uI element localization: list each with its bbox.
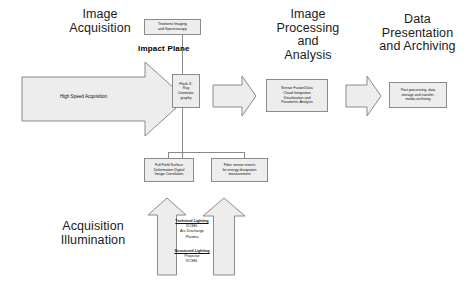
impact-plane-label: Impact Plane — [138, 44, 190, 53]
box-full-field-dic[interactable]: Full Field Surface Deformation Digital I… — [144, 158, 194, 182]
heading-line: and Archiving — [366, 40, 469, 54]
heading-line: Acquisition — [38, 220, 148, 234]
heading-image-processing-analysis: Image Processing and Analysis — [248, 8, 368, 62]
box-terahertz-imaging[interactable]: Terahertz Imaging and Spectroscopy — [144, 19, 201, 35]
illumination-item: Plasma — [157, 235, 227, 240]
box-line: measurement — [213, 172, 266, 177]
illumination-item: VCSEL — [157, 259, 227, 264]
diagram-canvas: Image Acquisition Image Processing and A… — [0, 0, 469, 285]
box-line: and Spectroscopy — [146, 27, 199, 32]
box-post-processing[interactable]: Post processing, data storage and transf… — [389, 82, 447, 108]
acquisition-to-processing-arrow — [213, 76, 256, 116]
heading-acquisition-illumination: Acquisition Illumination — [38, 220, 148, 247]
high-speed-acquisition-label: High Speed Acquisition — [22, 94, 145, 99]
heading-line: Acquisition — [40, 22, 160, 36]
processing-to-presentation-arrow — [346, 76, 381, 116]
box-line: graphy — [174, 96, 198, 101]
heading-line: Processing — [248, 22, 368, 36]
illumination-group-technical-lighting: Technical Lighting VCSEL Arc Discharge P… — [157, 219, 227, 240]
box-line: Image Correlation — [146, 172, 192, 177]
heading-line: Analysis — [248, 49, 368, 63]
high-speed-acquisition-arrow — [22, 62, 186, 136]
heading-line: Presentation — [366, 27, 469, 41]
heading-line: Image — [40, 8, 160, 22]
box-fiber-sensor-inserts[interactable]: Fiber sensor inserts for energy dissipat… — [211, 158, 268, 182]
box-line: Parametric Analysis — [268, 100, 326, 105]
illumination-group-structured-lighting: Structured Lighting Projector VCSEL — [157, 249, 227, 265]
box-sensor-fusion[interactable]: Sensor Fusion/Data Cloud Integration Vis… — [266, 79, 328, 112]
heading-line: and — [248, 35, 368, 49]
heading-data-presentation-archiving: Data Presentation and Archiving — [366, 13, 469, 54]
heading-line: Data — [366, 13, 469, 27]
heading-line: Image — [248, 8, 368, 22]
box-line: media archiving — [391, 97, 445, 102]
heading-image-acquisition: Image Acquisition — [40, 8, 160, 35]
box-flash-xray-cinematography[interactable]: Flash X- Ray Cinemato- graphy — [172, 74, 200, 108]
heading-line: Illumination — [38, 234, 148, 248]
